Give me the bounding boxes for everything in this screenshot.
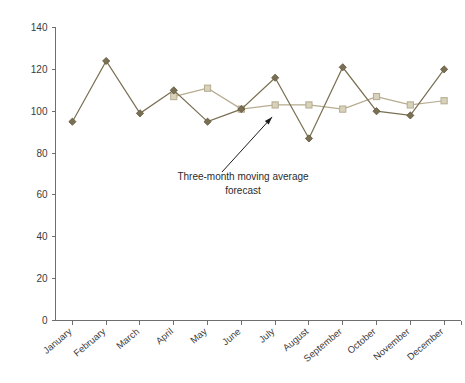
y-axis-tick-label: 120 — [31, 64, 48, 75]
annotation-label-line2: forecast — [225, 185, 261, 196]
data-point-september — [340, 106, 346, 112]
data-point-october — [373, 93, 379, 99]
data-point-august — [306, 102, 312, 108]
y-axis-tick-label: 60 — [36, 189, 48, 200]
y-axis-tick-label: 0 — [42, 315, 48, 326]
chart-container: 020406080100120140 JanuaryFebruaryMarchA… — [0, 0, 465, 383]
data-point-may — [204, 85, 210, 91]
y-axis-tick-label: 40 — [36, 231, 48, 242]
y-axis-tick-label: 20 — [36, 273, 48, 284]
y-axis-tick-label: 80 — [36, 148, 48, 159]
data-point-july — [272, 102, 278, 108]
y-axis-tick-label: 100 — [31, 106, 48, 117]
data-point-november — [407, 102, 413, 108]
line-chart: 020406080100120140 JanuaryFebruaryMarchA… — [0, 0, 465, 383]
y-axis-tick-label: 140 — [31, 22, 48, 33]
annotation-label-line1: Three-month moving average — [177, 171, 309, 182]
data-point-december — [441, 98, 447, 104]
